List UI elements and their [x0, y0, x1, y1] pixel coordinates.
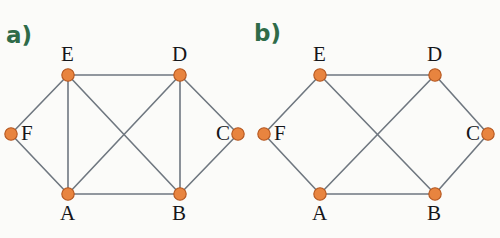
graph-edge-D-C	[435, 75, 488, 134]
graph-node-A[interactable]	[314, 188, 326, 200]
graph-node-label-A: A	[60, 203, 75, 224]
graph-node-label-B: B	[427, 203, 441, 224]
graph-node-F[interactable]	[5, 128, 17, 140]
panel-b-nodes	[258, 69, 494, 200]
graph-node-label-D: D	[427, 44, 442, 65]
graph-edge-E-F	[11, 75, 68, 134]
graph-node-D[interactable]	[174, 69, 186, 81]
graph-node-label-F: F	[274, 123, 286, 144]
graph-node-label-E: E	[313, 44, 326, 65]
graph-edge-E-F	[264, 75, 320, 134]
graph-node-C[interactable]	[482, 128, 494, 140]
graph-node-label-E: E	[61, 44, 74, 65]
graph-node-D[interactable]	[429, 69, 441, 81]
graph-edge-F-A	[11, 134, 68, 194]
graph-node-A[interactable]	[62, 188, 74, 200]
panel-a-edges	[11, 75, 238, 194]
graph-edge-C-B	[435, 134, 488, 194]
graph-node-label-C: C	[216, 123, 230, 144]
graph-node-B[interactable]	[429, 188, 441, 200]
graph-node-label-A: A	[312, 203, 327, 224]
graph-node-label-B: B	[172, 203, 186, 224]
graph-node-E[interactable]	[314, 69, 326, 81]
panel-b-edges	[264, 75, 488, 194]
graph-node-label-F: F	[21, 123, 33, 144]
graph-node-label-C: C	[466, 123, 480, 144]
graph-edge-F-A	[264, 134, 320, 194]
graph-node-B[interactable]	[174, 188, 186, 200]
graph-node-F[interactable]	[258, 128, 270, 140]
graph-figure: a) b) EDFCABEDFCAB	[0, 0, 500, 238]
graph-node-label-D: D	[172, 44, 187, 65]
graph-node-C[interactable]	[232, 128, 244, 140]
graph-node-E[interactable]	[62, 69, 74, 81]
